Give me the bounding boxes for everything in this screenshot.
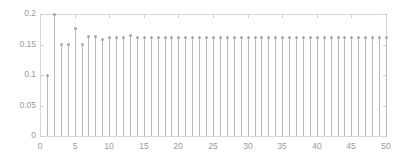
stem-line xyxy=(123,37,124,136)
stem-line xyxy=(282,38,283,136)
stem-line xyxy=(303,38,304,136)
y-axis-tick-label: 0.1 xyxy=(24,70,36,79)
x-axis-tick-mark-top xyxy=(75,14,76,18)
stem-line xyxy=(255,38,256,136)
x-axis-tick-mark-top xyxy=(178,14,179,18)
stem-line xyxy=(289,38,290,136)
stem-line xyxy=(171,38,172,136)
stem-line xyxy=(338,38,339,136)
stem-line xyxy=(75,29,76,136)
x-axis-tick-label: 15 xyxy=(132,142,156,151)
stem-plot-figure: 00.050.10.150.205101520253035404550 xyxy=(0,0,414,162)
stem-line xyxy=(365,38,366,136)
x-axis-tick-label: 0 xyxy=(28,142,52,151)
stem-marker xyxy=(60,43,63,46)
stem-line xyxy=(324,38,325,136)
stem-line xyxy=(358,38,359,136)
stem-line xyxy=(379,38,380,136)
y-axis-tick-mark xyxy=(40,75,44,76)
stem-line xyxy=(95,37,96,136)
stem-marker xyxy=(150,36,153,39)
stem-line xyxy=(144,38,145,136)
x-axis-tick-mark-top xyxy=(351,14,352,18)
stem-line xyxy=(206,38,207,136)
stem-line xyxy=(178,38,179,136)
x-axis-tick-label: 50 xyxy=(374,142,398,151)
stem-marker xyxy=(129,34,132,37)
stem-line xyxy=(151,37,152,136)
x-axis-tick-mark-top xyxy=(213,14,214,18)
stem-line xyxy=(220,38,221,136)
stem-line xyxy=(241,38,242,136)
stem-line xyxy=(165,38,166,136)
stem-line xyxy=(130,35,131,136)
stem-line xyxy=(344,38,345,136)
stem-line xyxy=(109,37,110,136)
stem-marker xyxy=(385,36,388,39)
stem-line xyxy=(268,38,269,136)
stem-line xyxy=(137,38,138,136)
stem-marker xyxy=(53,13,56,16)
stem-line xyxy=(310,38,311,136)
x-axis-tick-mark xyxy=(40,133,41,137)
stem-line xyxy=(185,38,186,136)
stem-marker xyxy=(81,43,84,46)
x-axis-tick-mark-top xyxy=(386,14,387,18)
stem-line xyxy=(102,40,103,136)
stem-line xyxy=(213,38,214,136)
y-axis-tick-mark xyxy=(40,45,44,46)
stem-marker xyxy=(115,36,118,39)
x-axis-tick-label: 45 xyxy=(339,142,363,151)
x-axis-tick-label: 25 xyxy=(201,142,225,151)
stem-line xyxy=(234,38,235,136)
x-axis-tick-label: 10 xyxy=(97,142,121,151)
stem-line xyxy=(372,38,373,136)
y-axis-tick-label: 0 xyxy=(31,131,36,140)
stem-line xyxy=(227,38,228,136)
stem-line xyxy=(248,38,249,136)
stem-line xyxy=(261,38,262,136)
stem-line xyxy=(47,75,48,136)
stem-line xyxy=(88,37,89,136)
stem-marker xyxy=(108,36,111,39)
y-axis-tick-label: 0.05 xyxy=(19,101,36,110)
x-axis-tick-mark-top xyxy=(248,14,249,18)
stem-marker xyxy=(46,74,49,77)
stem-line xyxy=(192,38,193,136)
y-axis-tick-mark xyxy=(40,106,44,107)
stem-line xyxy=(68,45,69,137)
stem-marker xyxy=(67,43,70,46)
y-axis-tick-label: 0.2 xyxy=(24,9,36,18)
stem-line xyxy=(199,38,200,136)
x-axis-tick-mark-top xyxy=(282,14,283,18)
stem-line xyxy=(351,38,352,136)
stem-line xyxy=(116,37,117,136)
x-axis-tick-mark-top xyxy=(144,14,145,18)
y-axis-tick-label: 0.15 xyxy=(19,40,36,49)
stem-line xyxy=(158,38,159,136)
x-axis-tick-label: 5 xyxy=(63,142,87,151)
stem-line xyxy=(317,38,318,136)
stem-marker xyxy=(122,36,125,39)
stem-line xyxy=(82,45,83,137)
stem-line xyxy=(331,38,332,136)
x-axis-tick-label: 35 xyxy=(270,142,294,151)
x-axis-tick-label: 30 xyxy=(236,142,260,151)
stem-line xyxy=(296,38,297,136)
x-axis-tick-label: 20 xyxy=(166,142,190,151)
x-axis-tick-mark-top xyxy=(40,14,41,18)
stem-line xyxy=(275,38,276,136)
stem-line xyxy=(54,14,55,136)
stem-line xyxy=(386,38,387,136)
stem-line xyxy=(61,45,62,137)
x-axis-tick-mark-top xyxy=(317,14,318,18)
x-axis-tick-mark-top xyxy=(109,14,110,18)
x-axis-tick-label: 40 xyxy=(305,142,329,151)
